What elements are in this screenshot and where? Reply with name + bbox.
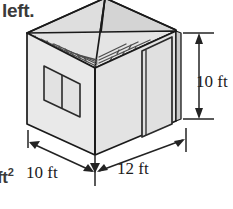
building-isometric-drawing: [0, 0, 233, 209]
dimension-height-group: [183, 33, 214, 119]
height-arrow-up: [195, 33, 203, 44]
wall-right-edge-sliver: [176, 31, 181, 121]
door-group: [142, 37, 172, 137]
depth-arrow-left: [29, 141, 40, 149]
height-arrow-down: [195, 108, 203, 119]
geometry-figure-building: left. ft2 10 ft 10 ft 12 ft: [0, 0, 233, 209]
width-arrow-right: [174, 139, 185, 147]
